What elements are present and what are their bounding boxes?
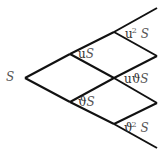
node-up-label: uS (78, 48, 94, 60)
node-upup-label: u2 S (125, 27, 149, 40)
node-root-label: S (6, 71, 14, 83)
node-downdown-label: ϑ2 S (124, 121, 149, 134)
node-down-label: ϑS (78, 96, 95, 108)
node-updown-label: uϑS (124, 73, 149, 85)
